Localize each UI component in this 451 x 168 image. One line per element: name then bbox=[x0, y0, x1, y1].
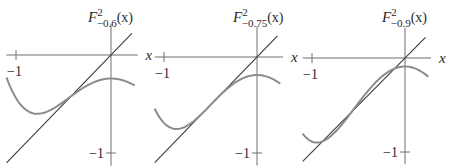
y-tick-label: −1 bbox=[89, 146, 104, 161]
x-axis-label: x bbox=[290, 49, 298, 65]
y-tick-label: −1 bbox=[235, 146, 250, 161]
panel-title: F2−0.75(x) bbox=[232, 6, 284, 29]
x-axis-label: x bbox=[145, 47, 153, 63]
second-iterate-curve bbox=[155, 75, 281, 129]
x-tick-label: −1 bbox=[7, 64, 22, 79]
panel-title: F2−0.9(x) bbox=[381, 6, 427, 29]
second-iterate-curve bbox=[7, 77, 135, 113]
x-axis-label: x bbox=[438, 50, 446, 66]
panel-c-neg-0-75: x −1 −1 F2−0.75(x) bbox=[155, 6, 298, 165]
figure-three-panels: x −1 −1 F2−0.6(x) x −1 −1 F2−0.75(x) x −… bbox=[0, 0, 451, 168]
second-iterate-curve bbox=[303, 66, 429, 142]
panel-c-neg-0-9: x −1 −1 F2−0.9(x) bbox=[303, 6, 446, 164]
x-tick-label: −1 bbox=[303, 67, 318, 82]
panel-c-neg-0-6: x −1 −1 F2−0.6(x) bbox=[7, 6, 153, 166]
panel-title: F2−0.6(x) bbox=[87, 6, 133, 29]
x-tick-label: −1 bbox=[155, 66, 170, 81]
y-tick-label: −1 bbox=[383, 145, 398, 160]
